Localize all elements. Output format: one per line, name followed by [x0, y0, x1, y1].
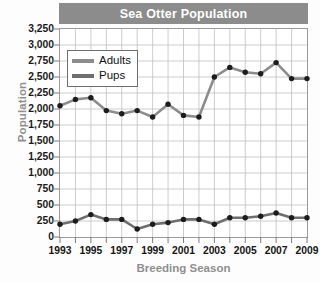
- data-point: [73, 97, 78, 102]
- data-point: [88, 95, 93, 100]
- data-point: [304, 215, 309, 220]
- data-point: [258, 214, 263, 219]
- legend-line-swatch: [72, 74, 94, 78]
- chart-title-band: Sea Otter Population: [59, 3, 308, 24]
- legend-item-label: Pups: [99, 69, 125, 82]
- y-axis-tick-label: 3,000: [14, 40, 54, 50]
- data-point: [104, 108, 109, 113]
- legend-item-label: Adults: [99, 54, 131, 67]
- data-point: [73, 218, 78, 223]
- chart-title: Sea Otter Population: [120, 7, 248, 21]
- data-point: [289, 215, 294, 220]
- data-point: [165, 220, 170, 225]
- y-axis-tick-label: 250: [14, 216, 54, 226]
- data-point: [212, 222, 217, 227]
- y-axis-tick-label: 2,750: [14, 56, 54, 66]
- y-axis-tick-labels: 3,2503,0002,7502,5002,2502,0001,7501,500…: [14, 33, 54, 245]
- y-axis-tick-label: 750: [14, 184, 54, 194]
- data-point: [104, 217, 109, 222]
- data-point: [119, 217, 124, 222]
- data-point: [181, 113, 186, 118]
- y-axis-tick-label: 2,000: [14, 104, 54, 114]
- y-axis-tick-label: 1,250: [14, 152, 54, 162]
- data-point: [227, 65, 232, 70]
- data-point: [57, 222, 62, 227]
- data-point: [150, 114, 155, 119]
- data-point: [289, 76, 294, 81]
- data-point: [196, 217, 201, 222]
- legend-item: Adults: [72, 53, 131, 68]
- y-axis-tick-label: 1,000: [14, 168, 54, 178]
- y-axis-tick-label: 2,500: [14, 72, 54, 82]
- data-point: [212, 74, 217, 79]
- legend-item: Pups: [72, 68, 131, 83]
- y-axis-tick-label: 3,250: [14, 24, 54, 34]
- series-pups: [57, 210, 309, 231]
- data-point: [150, 222, 155, 227]
- data-point: [258, 71, 263, 76]
- data-point: [165, 102, 170, 107]
- data-point: [304, 76, 309, 81]
- chart-legend: AdultsPups: [67, 50, 138, 87]
- x-axis-tick-labels: 199319951997199920012003200520072009: [40, 245, 320, 259]
- x-axis-title: Breeding Season: [59, 262, 308, 274]
- y-axis-tick-label: 500: [14, 200, 54, 210]
- data-point: [134, 108, 139, 113]
- data-point: [273, 60, 278, 65]
- data-point: [243, 70, 248, 75]
- data-point: [57, 103, 62, 108]
- legend-line-swatch: [72, 59, 94, 63]
- y-axis-tick-label: 0: [14, 232, 54, 242]
- x-axis-tick-marks: [59, 237, 309, 245]
- y-axis-tick-label: 1,500: [14, 136, 54, 146]
- y-axis-tick-label: 2,250: [14, 88, 54, 98]
- data-point: [88, 212, 93, 217]
- data-point: [181, 217, 186, 222]
- sea-otter-population-chart: Sea Otter Population Population 3,2503,0…: [0, 0, 320, 283]
- x-axis-tick-label: 2009: [287, 245, 320, 256]
- data-point: [227, 215, 232, 220]
- data-point: [134, 226, 139, 231]
- data-point: [243, 215, 248, 220]
- y-axis-tick-label: 1,750: [14, 120, 54, 130]
- data-point: [119, 111, 124, 116]
- data-point: [196, 114, 201, 119]
- data-point: [273, 210, 278, 215]
